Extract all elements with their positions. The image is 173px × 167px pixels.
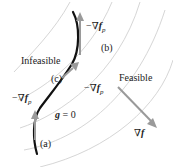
f-symbol: f bbox=[141, 127, 146, 138]
arrowhead-icon bbox=[76, 12, 84, 21]
equals-zero: = 0 bbox=[60, 109, 76, 120]
neg-nabla: −∇ bbox=[12, 92, 25, 103]
feasible-label: Feasible bbox=[119, 72, 153, 83]
neg-grad-fp-label-c: −∇fp bbox=[84, 82, 104, 96]
point-a-label: (a) bbox=[40, 138, 51, 150]
p-subscript: p bbox=[27, 98, 32, 106]
infeasible-label: Infeasible bbox=[21, 55, 61, 66]
neg-nabla: −∇ bbox=[84, 82, 97, 93]
point-c-label: (c) bbox=[51, 73, 62, 85]
grad-f-arrow bbox=[118, 87, 152, 122]
grad-f-label: ∇f bbox=[134, 127, 146, 138]
p-subscript: p bbox=[99, 88, 104, 96]
p-subscript: p bbox=[101, 26, 106, 34]
nabla: ∇ bbox=[134, 127, 141, 138]
constraint-label: g = 0 bbox=[54, 109, 76, 120]
constraint-diagram: Infeasible Feasible (c) (b) (a) g = 0 −∇… bbox=[0, 0, 173, 167]
point-b-label: (b) bbox=[101, 42, 113, 54]
neg-nabla: −∇ bbox=[86, 20, 99, 31]
